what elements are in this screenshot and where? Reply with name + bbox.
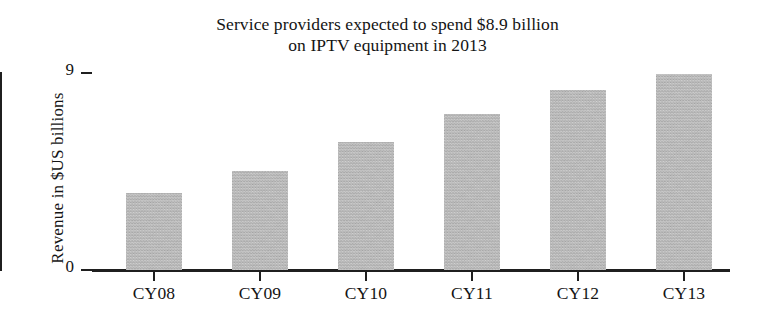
x-tick-label-cy12: CY12	[523, 283, 633, 304]
chart-title-line-1: Service providers expected to spend $8.9…	[95, 14, 680, 35]
y-tick-label-0: 0	[52, 257, 74, 277]
x-axis-tick-cy12	[577, 272, 579, 281]
x-axis-tick-cy10	[365, 272, 367, 281]
x-tick-label-cy13: CY13	[629, 283, 739, 304]
bar-chart-figure: Service providers expected to spend $8.9…	[0, 0, 765, 323]
x-tick-label-cy11: CY11	[417, 283, 527, 304]
bar-cy09	[232, 171, 288, 270]
chart-title-line-2: on IPTV equipment in 2013	[95, 35, 680, 56]
bar-cy10	[338, 142, 394, 270]
x-axis-tick-cy11	[471, 272, 473, 281]
chart-title: Service providers expected to spend $8.9…	[95, 14, 680, 56]
x-axis-tick-cy13	[683, 272, 685, 281]
x-tick-label-cy08: CY08	[99, 283, 209, 304]
bar-cy13	[656, 74, 712, 270]
plot-area	[92, 72, 730, 270]
bar-cy11	[444, 114, 500, 270]
y-axis-tick-top	[81, 72, 92, 74]
bar-cy08	[126, 193, 182, 270]
x-tick-label-cy09: CY09	[205, 283, 315, 304]
y-axis-tick-bottom	[81, 269, 92, 271]
y-axis-line	[0, 72, 2, 271]
x-tick-label-cy10: CY10	[311, 283, 421, 304]
x-axis-tick-cy08	[153, 272, 155, 281]
bar-cy12	[550, 90, 606, 270]
x-axis-tick-cy09	[259, 272, 261, 281]
y-tick-label-9: 9	[52, 60, 74, 80]
